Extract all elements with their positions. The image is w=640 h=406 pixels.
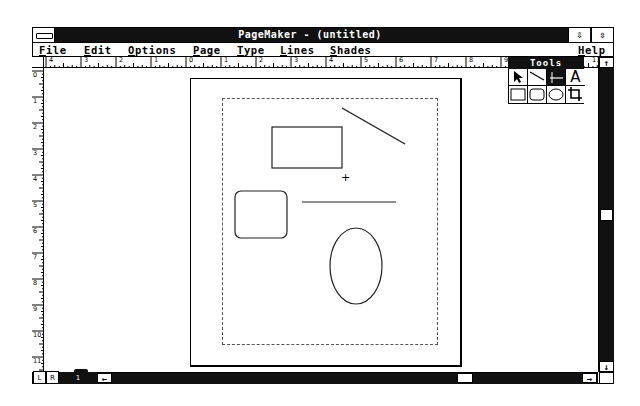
pointer-tool[interactable] <box>509 69 528 86</box>
arrow-left-icon: ← <box>102 374 107 384</box>
rectangle-icon <box>511 89 525 100</box>
pointer-icon <box>514 71 523 83</box>
scroll-right-button[interactable]: → <box>582 373 597 383</box>
size-box <box>599 372 614 384</box>
arrow-up-icon: ↑ <box>604 58 609 68</box>
right-master-page-icon[interactable]: R <box>46 371 59 384</box>
arrow-right-icon: → <box>587 374 592 384</box>
text-tool[interactable]: A <box>566 69 585 86</box>
oval-tool[interactable] <box>547 86 566 103</box>
arrow-down-icon: ↓ <box>604 362 609 372</box>
horizontal-scrollbar[interactable] <box>96 372 598 384</box>
diagonal-line-tool[interactable] <box>528 69 547 86</box>
scroll-left-button[interactable]: ← <box>97 373 112 383</box>
crop-tool[interactable] <box>566 86 585 103</box>
rounded-rectangle-object[interactable] <box>235 191 287 238</box>
perpendicular-line-tool[interactable] <box>547 69 566 86</box>
vertical-scroll-thumb[interactable] <box>600 209 613 221</box>
oval-icon <box>549 89 563 100</box>
rounded-rectangle-tool[interactable] <box>528 86 547 103</box>
rectangle-tool[interactable] <box>509 86 528 103</box>
page-1-icon[interactable]: 1 <box>63 373 93 383</box>
left-master-page-icon[interactable]: L <box>33 371 46 384</box>
oval-object[interactable] <box>330 228 382 304</box>
left-master-label: L <box>38 374 42 382</box>
text-tool-icon: A <box>570 68 580 86</box>
scroll-up-button[interactable]: ↑ <box>599 57 614 68</box>
diagonal-line-object[interactable] <box>342 108 405 144</box>
diagonal-line-icon <box>530 72 544 80</box>
crosshair-cursor: + <box>341 172 350 183</box>
horizontal-scroll-thumb[interactable] <box>457 373 473 383</box>
crop-icon <box>568 87 582 101</box>
right-master-label: R <box>50 374 55 382</box>
rounded-rectangle-icon <box>530 89 544 100</box>
scroll-down-button[interactable]: ↓ <box>599 361 614 372</box>
rectangle-object[interactable] <box>272 127 342 168</box>
